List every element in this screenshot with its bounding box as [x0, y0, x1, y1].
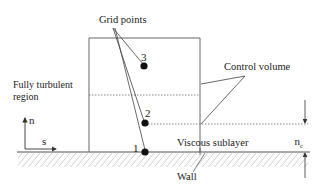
grid-point-3: [140, 62, 147, 69]
grid-point-2: [141, 119, 148, 126]
pointer-1: [115, 28, 145, 150]
viscous-sublayer-label: Viscous sublayer: [177, 137, 249, 148]
wall-function-diagram: 3 2 1 Grid points Control volume Fully t…: [0, 0, 326, 192]
wall-hatch: [18, 153, 308, 167]
grid-point-1: [141, 148, 148, 155]
nc-label: nc: [294, 135, 303, 150]
pointer-2: [113, 28, 144, 121]
fully-turbulent-label: Fully turbulent: [13, 79, 73, 90]
s-axis-label: s: [42, 135, 46, 147]
wall-label: Wall: [177, 171, 197, 182]
region-label: region: [13, 91, 39, 102]
point-3-label: 3: [141, 51, 147, 63]
pointer-3: [113, 28, 143, 64]
point-1-label: 1: [133, 142, 139, 154]
point-2-label: 2: [145, 107, 151, 119]
grid-points-label: Grid points: [99, 14, 147, 25]
control-volume-label: Control volume: [224, 61, 291, 72]
n-axis-label: n: [29, 114, 35, 126]
